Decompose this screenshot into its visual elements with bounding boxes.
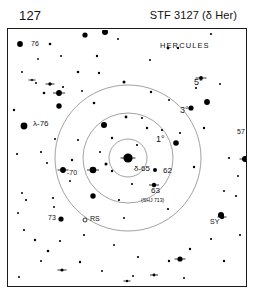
chart-title: STF 3127 (δ Her): [150, 9, 237, 21]
star-marker: [23, 229, 25, 231]
range-ring-label: 3°: [180, 105, 189, 115]
star-marker: [149, 59, 151, 61]
star-marker: [69, 180, 71, 182]
star-marker: [54, 138, 56, 140]
star-marker: [219, 83, 221, 85]
star-marker: [183, 277, 185, 279]
star-marker: [123, 81, 126, 84]
star-marker: [77, 139, 79, 141]
double-star-marker: [58, 268, 67, 271]
chart-number: 127: [19, 8, 41, 23]
star-chart-page: 127 STF 3127 (δ Her) 1°3°5° 76λ-76-7073R…: [0, 0, 254, 292]
sky-field: 1°3°5° 76λ-76-7073RS6263(SHJ 713)57SYδ-6…: [8, 30, 246, 286]
star-marker: [40, 260, 42, 262]
star-marker: [210, 238, 212, 240]
star-marker: [111, 170, 113, 172]
star-marker: [16, 153, 18, 155]
range-ring-label: 1°: [156, 134, 165, 144]
star-marker: [132, 275, 134, 277]
star-marker: [118, 199, 120, 201]
star-marker: [77, 71, 80, 74]
star-marker: [37, 58, 39, 60]
star-marker: [58, 216, 63, 221]
constellation-label: HERCULES: [160, 41, 210, 50]
star-lambda-76-label: λ-76: [33, 119, 49, 128]
star-marker: [125, 116, 128, 119]
star-marker: [153, 168, 157, 172]
chart-header: 127 STF 3127 (δ Her): [7, 4, 247, 29]
star-62-label: 62: [163, 166, 172, 175]
star-76-label: 76: [31, 40, 39, 47]
star-marker: [93, 102, 96, 105]
star-marker: [59, 240, 61, 242]
double-star-marker: [87, 167, 99, 174]
star-marker: [235, 195, 237, 197]
star-marker: [204, 99, 210, 105]
star-marker: [117, 38, 119, 40]
star-marker: [34, 239, 36, 241]
star-marker: [40, 151, 42, 153]
star-marker: [136, 144, 138, 146]
star-marker: [239, 234, 241, 236]
double-star-marker: [150, 274, 158, 277]
star-marker: [161, 129, 163, 131]
star-labels-group: 76λ-76-7073RS6263(SHJ 713)57SYδ-65HERCUL…: [31, 40, 245, 225]
star-marker: [21, 71, 23, 73]
star-marker: [17, 212, 19, 214]
star-marker: [60, 55, 62, 57]
star-marker: [98, 72, 100, 74]
double-star-marker: [29, 79, 36, 81]
star-marker: [113, 244, 115, 246]
star-rs-label: RS: [90, 215, 100, 222]
star-marker: [52, 197, 54, 199]
sky-field-svg: 1°3°5° 76λ-76-7073RS6263(SHJ 713)57SYδ-6…: [8, 30, 246, 286]
star-marker: [21, 192, 23, 194]
variable-stars-group: [83, 218, 87, 222]
star-marker: [99, 151, 101, 153]
star-marker: [101, 270, 103, 272]
star-marker: [195, 87, 197, 89]
star-marker: [43, 92, 46, 95]
star-marker: [21, 123, 28, 130]
star-marker: [35, 82, 37, 84]
star-marker: [167, 208, 169, 210]
double-star-marker: [175, 256, 186, 261]
star-marker: [71, 159, 73, 161]
star-marker: [228, 157, 230, 159]
star-marker: [17, 41, 23, 47]
variable-star-marker: [83, 218, 87, 222]
star-marker: [18, 276, 20, 278]
star-marker: [62, 86, 64, 88]
star-marker: [173, 140, 179, 146]
star-marker: [150, 91, 152, 93]
star-marker: [193, 166, 195, 168]
star-63-sub-label: (SHJ 713): [141, 197, 165, 203]
double-star-marker: [124, 280, 131, 282]
star-marker: [47, 250, 50, 253]
star-marker: [25, 199, 27, 201]
star-marker: [83, 234, 85, 236]
star-marker: [168, 99, 170, 101]
star-marker: [49, 43, 52, 46]
star-57-label: 57: [237, 128, 245, 135]
star-marker: [168, 260, 170, 262]
double-star-marker: [53, 90, 65, 96]
star-marker: [101, 122, 107, 128]
star-marker: [111, 137, 113, 139]
star-marker: [203, 127, 205, 129]
star-70-label: -70: [67, 169, 77, 176]
star-marker: [146, 127, 148, 129]
star-marker: [46, 162, 48, 164]
star-marker: [96, 55, 98, 57]
star-73-label: 73: [48, 214, 56, 221]
star-marker: [189, 248, 191, 250]
star-marker: [13, 109, 15, 111]
star-marker: [123, 217, 125, 219]
star-marker: [137, 256, 139, 258]
star-marker: [223, 190, 225, 192]
star-marker: [237, 175, 239, 177]
center-star-label: δ-65: [134, 164, 151, 173]
double-star-marker: [121, 153, 136, 162]
star-marker: [82, 32, 87, 37]
star-marker: [105, 163, 108, 166]
